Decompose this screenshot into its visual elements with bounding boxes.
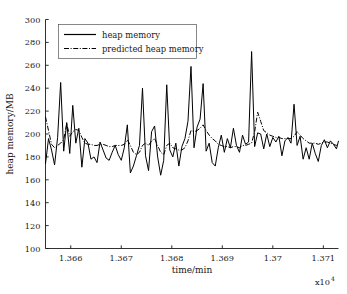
y-tick-label: 100 [25,244,41,254]
line-chart: 100120140160180200220240260280300 1.3661… [0,0,347,294]
x-axis-exponent-power: 4 [331,275,335,282]
y-tick-label: 220 [25,106,41,116]
y-axis-title: heap memory/MB [5,93,15,175]
y-tick-label: 260 [25,60,41,70]
x-tick-label: 1.37 [264,253,282,263]
series-line-heap-memory [46,52,339,176]
y-tick-label: 280 [25,37,41,47]
x-tick-label: 1.368 [160,253,183,263]
y-tick-label: 240 [25,83,41,93]
x-axis-exponent-base: x10 [315,277,330,287]
series-line-predicted-heap-memory [46,112,339,154]
y-tick-label: 160 [25,175,41,185]
legend-label-heap-memory: heap memory [102,30,160,40]
x-tick-label: 1.367 [110,253,133,263]
chart-figure: 100120140160180200220240260280300 1.3661… [0,0,347,294]
x-axis-exponent: x10 4 [315,275,335,287]
x-axis-title: time/min [172,265,213,275]
y-tick-label: 200 [25,129,41,139]
chart-legend: heap memory predicted heap memory [59,25,204,59]
y-tick-label: 300 [25,15,41,25]
y-tick-label: 140 [25,198,41,208]
x-tick-label: 1.366 [59,253,82,263]
x-axis-ticks: 1.3661.3671.3681.3691.371.371 [59,245,335,262]
x-tick-label: 1.371 [312,253,335,263]
data-series-group [46,52,339,176]
y-tick-label: 120 [25,221,41,231]
x-tick-label: 1.369 [211,253,234,263]
y-tick-label: 180 [25,152,41,162]
legend-label-predicted-heap-memory: predicted heap memory [102,44,204,54]
